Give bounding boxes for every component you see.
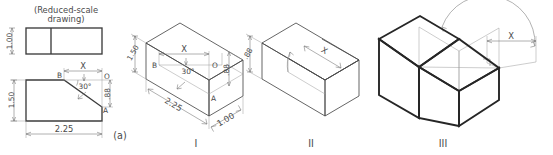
step-3-group: X III <box>379 0 536 149</box>
technical-drawing-figure: (Reduced-scale drawing) 1.00 <box>0 0 553 155</box>
step-3-solid-outline <box>379 16 499 126</box>
step-1-x-value: X <box>181 44 187 54</box>
step-2-swing-arc <box>287 52 293 72</box>
top-view-depth-dimension: 1.00 <box>5 28 15 54</box>
top-view-depth-value: 1.00 <box>5 32 14 49</box>
step-2-right-height-dimension: .88 <box>241 34 262 79</box>
front-view-vertex-a: A <box>103 106 108 115</box>
step-3-numeral: III <box>439 138 448 149</box>
step-2-x-dimension: X <box>304 45 341 68</box>
front-view-vertex-b: B <box>57 71 62 80</box>
note-line-2: drawing) <box>48 14 85 24</box>
front-view-height-dimension: 1.50 <box>7 80 26 121</box>
step-1-height-dimension: 1.50 <box>125 34 146 79</box>
step-1-height-value: 1.50 <box>125 43 141 62</box>
step-1-angle-value: 30° <box>181 67 194 76</box>
step-2-numeral: II <box>308 138 314 149</box>
front-view-right-height-value: .88 <box>103 88 112 100</box>
step-1-length-value: 2.25 <box>163 95 184 113</box>
front-view-vertex-o: O <box>104 72 110 81</box>
step-1-vertex-o: O <box>212 61 218 70</box>
front-view-height-value: 1.50 <box>7 91 16 108</box>
front-view-width-value: 2.25 <box>55 124 74 134</box>
orthographic-group: (Reduced-scale drawing) 1.00 <box>5 5 127 141</box>
part-label-a: (a) <box>113 130 126 141</box>
step-3-x-value: X <box>508 31 514 41</box>
step-1-right-height-value: .88 <box>222 64 231 76</box>
top-view-outline <box>26 28 102 54</box>
step-1-vertex-b: B <box>152 61 157 70</box>
step-1-depth-value: 1.00 <box>215 110 236 128</box>
step-1-numeral: I <box>195 138 198 149</box>
drawing-canvas: (Reduced-scale drawing) 1.00 <box>0 0 553 155</box>
step-2-x-value: X <box>320 45 330 57</box>
front-view-right-height-dimension: .88 <box>102 80 113 107</box>
step-2-box-outline <box>262 23 359 116</box>
front-view-width-dimension: 2.25 <box>26 121 102 138</box>
step-1-right-height-dimension: .88 <box>222 50 243 86</box>
step-1-group: B O A X 30° <box>125 23 243 149</box>
step-1-vertex-a: A <box>211 94 216 103</box>
step-2-group: X .88 II <box>241 23 359 149</box>
front-view-x-value: X <box>80 61 86 71</box>
front-view-angle-value: 30° <box>78 82 91 91</box>
front-view-angle-dimension: 30° <box>64 74 102 99</box>
step-2-right-height-value: .88 <box>241 46 255 61</box>
